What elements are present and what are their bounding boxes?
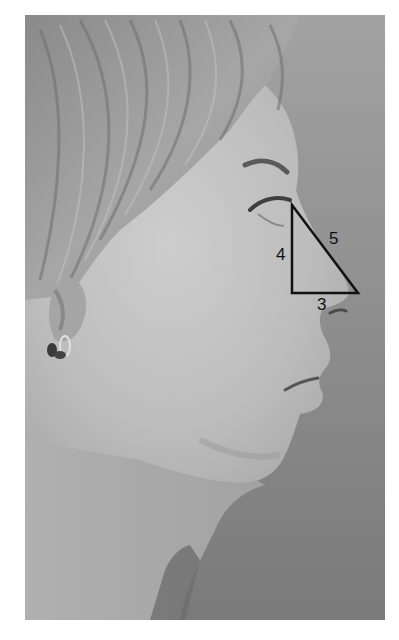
triangle-label-base: 3 — [317, 296, 326, 313]
triangle-label-hypotenuse: 5 — [329, 230, 338, 247]
triangle-label-vertical: 4 — [276, 246, 285, 263]
profile-illustration — [25, 15, 385, 620]
figure-caption — [25, 628, 385, 640]
profile-photo — [25, 15, 385, 620]
